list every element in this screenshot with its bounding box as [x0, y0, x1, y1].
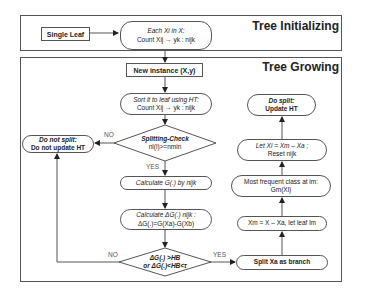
hb-check-label: ΔG(.) >HB or ΔG(.)<HB<τ	[125, 253, 205, 271]
do-not-split-line2: Do not update HT	[31, 144, 85, 152]
hb-check-line2: or ΔG(.)<HB<τ	[143, 262, 187, 270]
splitting-check-line2: nl(l)>=nmin	[149, 143, 182, 151]
most-frequent-line2: Gm(Xl)	[271, 186, 292, 194]
let-xi-line2: Reset nijk	[268, 150, 297, 158]
yes-label-hb: YES	[213, 251, 226, 258]
each-xi-line1: Each Xi in X:	[147, 27, 184, 35]
yes-label-splitting: YES	[146, 163, 159, 170]
do-not-split-line1: Do not split:	[39, 136, 77, 144]
let-xi-line1: Let Xi = Xm – Xa ;	[256, 142, 309, 150]
sort-leaf-line1: Sort it to leaf using HT:	[133, 96, 199, 104]
let-xi-node: Let Xi = Xm – Xa ; Reset nijk	[237, 139, 327, 161]
each-xi-line2: Count Xij → yk : nijk	[137, 36, 195, 44]
each-xi-node: Each Xi in X: Count Xij → yk : nijk	[120, 21, 212, 50]
sort-leaf-node: Sort it to leaf using HT: Count Xij → yk…	[120, 93, 212, 115]
xm-assign-node: Xm = X – Xa, let leaf lm	[237, 216, 327, 231]
no-label-hb: NO	[108, 251, 118, 258]
split-xa-node: Split Xa as branch	[236, 255, 328, 270]
new-instance-node: New instance (X,y)	[126, 63, 203, 77]
calculate-delta-g-line2: ΔG(.)=G(Xa)-G(Xb)	[138, 220, 194, 228]
do-split-line1: Do split:	[269, 97, 295, 105]
do-not-split-node: Do not split: Do not update HT	[22, 135, 94, 153]
hb-check-line1: ΔG(.) >HB	[150, 254, 181, 262]
most-frequent-line1: Most frequent class at lm:	[244, 178, 318, 186]
calculate-delta-g-line1: Calculate ΔG(.) nijk :	[136, 211, 196, 219]
most-frequent-node: Most frequent class at lm: Gm(Xl)	[231, 175, 331, 197]
splitting-check-label: Splitting-Check nl(l)>=nmin	[120, 133, 210, 153]
do-split-node: Do split: Update HT	[247, 94, 316, 116]
sort-leaf-line2: Count Xij → yk : nijk	[137, 104, 195, 112]
no-label-splitting: NO	[104, 131, 114, 138]
single-leaf-node: Single Leaf	[41, 27, 90, 41]
calculate-g-node: Calculate G(.) by nijk	[120, 176, 212, 190]
calculate-delta-g-node: Calculate ΔG(.) nijk : ΔG(.)=G(Xa)-G(Xb)	[120, 209, 212, 230]
do-split-line2: Update HT	[265, 105, 298, 113]
splitting-check-line1: Splitting-Check	[141, 135, 189, 143]
